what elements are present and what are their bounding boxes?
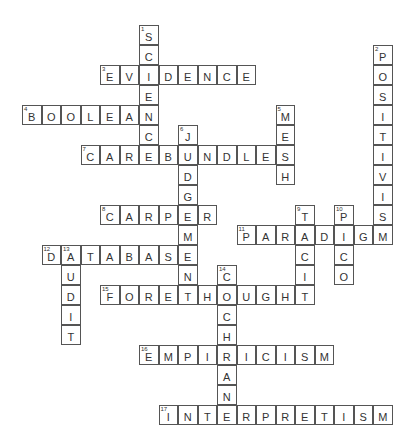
- crossword-cell[interactable]: I: [276, 345, 296, 365]
- crossword-cell[interactable]: I: [198, 345, 218, 365]
- crossword-cell[interactable]: M: [159, 345, 179, 365]
- crossword-cell[interactable]: 7C: [81, 145, 101, 165]
- crossword-cell[interactable]: 14C: [217, 265, 237, 285]
- crossword-cell[interactable]: O: [42, 105, 62, 125]
- crossword-cell[interactable]: 1S: [139, 25, 159, 45]
- crossword-cell[interactable]: E: [139, 85, 159, 105]
- crossword-cell[interactable]: T: [295, 285, 315, 305]
- crossword-cell[interactable]: L: [81, 105, 101, 125]
- crossword-cell[interactable]: T: [178, 285, 198, 305]
- crossword-cell[interactable]: A: [139, 245, 159, 265]
- crossword-cell[interactable]: N: [198, 145, 218, 165]
- crossword-cell[interactable]: E: [276, 125, 296, 145]
- crossword-cell[interactable]: I: [139, 65, 159, 85]
- crossword-cell[interactable]: E: [139, 145, 159, 165]
- crossword-cell[interactable]: A: [120, 105, 140, 125]
- crossword-cell[interactable]: N: [198, 65, 218, 85]
- crossword-cell[interactable]: R: [198, 205, 218, 225]
- crossword-cell[interactable]: I: [237, 345, 257, 365]
- crossword-cell[interactable]: H: [276, 165, 296, 185]
- crossword-cell[interactable]: 17I: [159, 405, 179, 425]
- crossword-cell[interactable]: R: [276, 405, 296, 425]
- crossword-cell[interactable]: I: [373, 105, 393, 125]
- crossword-cell[interactable]: 16E: [139, 345, 159, 365]
- crossword-cell[interactable]: O: [217, 285, 237, 305]
- crossword-cell[interactable]: N: [139, 105, 159, 125]
- crossword-cell[interactable]: L: [237, 145, 257, 165]
- crossword-cell[interactable]: C: [334, 245, 354, 265]
- crossword-cell[interactable]: R: [217, 345, 237, 365]
- crossword-cell[interactable]: E: [100, 105, 120, 125]
- crossword-cell[interactable]: S: [354, 405, 374, 425]
- crossword-cell[interactable]: S: [373, 85, 393, 105]
- crossword-cell[interactable]: T: [315, 405, 335, 425]
- crossword-cell[interactable]: C: [217, 65, 237, 85]
- crossword-cell[interactable]: A: [217, 365, 237, 385]
- crossword-cell[interactable]: 13A: [61, 245, 81, 265]
- crossword-cell[interactable]: R: [276, 225, 296, 245]
- crossword-cell[interactable]: R: [237, 405, 257, 425]
- crossword-cell[interactable]: M: [315, 345, 335, 365]
- crossword-cell[interactable]: 15F: [100, 285, 120, 305]
- crossword-cell[interactable]: A: [100, 245, 120, 265]
- crossword-cell[interactable]: R: [139, 205, 159, 225]
- crossword-cell[interactable]: E: [237, 65, 257, 85]
- crossword-cell[interactable]: G: [178, 185, 198, 205]
- crossword-cell[interactable]: N: [178, 405, 198, 425]
- crossword-cell[interactable]: 8C: [100, 205, 120, 225]
- crossword-cell[interactable]: H: [198, 285, 218, 305]
- crossword-cell[interactable]: H: [276, 285, 296, 305]
- crossword-cell[interactable]: D: [178, 165, 198, 185]
- crossword-cell[interactable]: 5M: [276, 105, 296, 125]
- crossword-cell[interactable]: 2P: [373, 45, 393, 65]
- crossword-cell[interactable]: C: [139, 45, 159, 65]
- crossword-cell[interactable]: T: [81, 245, 101, 265]
- crossword-cell[interactable]: V: [373, 165, 393, 185]
- crossword-cell[interactable]: A: [295, 225, 315, 245]
- crossword-cell[interactable]: 12D: [42, 245, 62, 265]
- crossword-cell[interactable]: C: [217, 305, 237, 325]
- crossword-cell[interactable]: N: [217, 385, 237, 405]
- crossword-cell[interactable]: T: [61, 325, 81, 345]
- crossword-cell[interactable]: R: [120, 145, 140, 165]
- crossword-cell[interactable]: N: [178, 265, 198, 285]
- crossword-cell[interactable]: I: [373, 145, 393, 165]
- crossword-cell[interactable]: U: [178, 145, 198, 165]
- crossword-cell[interactable]: 6J: [178, 125, 198, 145]
- crossword-cell[interactable]: E: [295, 405, 315, 425]
- crossword-cell[interactable]: S: [373, 205, 393, 225]
- crossword-cell[interactable]: E: [256, 145, 276, 165]
- crossword-cell[interactable]: I: [295, 265, 315, 285]
- crossword-cell[interactable]: I: [61, 305, 81, 325]
- crossword-cell[interactable]: O: [120, 285, 140, 305]
- crossword-cell[interactable]: M: [373, 225, 393, 245]
- crossword-cell[interactable]: I: [334, 225, 354, 245]
- crossword-cell[interactable]: T: [373, 125, 393, 145]
- crossword-cell[interactable]: D: [159, 65, 179, 85]
- crossword-cell[interactable]: D: [61, 285, 81, 305]
- crossword-cell[interactable]: S: [159, 245, 179, 265]
- crossword-cell[interactable]: E: [178, 205, 198, 225]
- crossword-cell[interactable]: O: [373, 65, 393, 85]
- crossword-cell[interactable]: V: [120, 65, 140, 85]
- crossword-cell[interactable]: C: [256, 345, 276, 365]
- crossword-cell[interactable]: P: [159, 205, 179, 225]
- crossword-cell[interactable]: P: [178, 345, 198, 365]
- crossword-cell[interactable]: G: [354, 225, 374, 245]
- crossword-cell[interactable]: A: [100, 145, 120, 165]
- crossword-cell[interactable]: U: [237, 285, 257, 305]
- crossword-cell[interactable]: R: [139, 285, 159, 305]
- crossword-cell[interactable]: B: [120, 245, 140, 265]
- crossword-cell[interactable]: U: [61, 265, 81, 285]
- crossword-cell[interactable]: P: [256, 405, 276, 425]
- crossword-cell[interactable]: C: [295, 245, 315, 265]
- crossword-cell[interactable]: E: [178, 245, 198, 265]
- crossword-cell[interactable]: I: [373, 185, 393, 205]
- crossword-cell[interactable]: A: [120, 205, 140, 225]
- crossword-cell[interactable]: O: [334, 265, 354, 285]
- crossword-cell[interactable]: E: [159, 285, 179, 305]
- crossword-cell[interactable]: 4B: [22, 105, 42, 125]
- crossword-cell[interactable]: D: [315, 225, 335, 245]
- crossword-cell[interactable]: S: [295, 345, 315, 365]
- crossword-cell[interactable]: 10P: [334, 205, 354, 225]
